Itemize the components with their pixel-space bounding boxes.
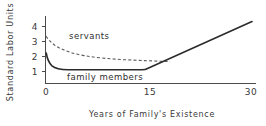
series-label-family-members: family members [67,72,143,82]
y-axis-title: Standard Labor Units [6,3,15,102]
y-tick-label-2: 2 [32,52,38,62]
labor-units-line-chart: 4 3 2 1 0 15 30 Standard Labor Units Yea… [0,0,266,126]
x-tick-label-0: 0 [43,87,49,97]
y-tick-label-3: 3 [32,37,38,47]
y-tick-label-1: 1 [32,67,38,77]
x-tick-label-15: 15 [144,87,156,97]
series-label-servants: servants [69,31,110,41]
x-axis-title: Years of Family's Existence [88,110,215,119]
x-tick-label-30: 30 [245,87,257,97]
series-family-members-curve [46,22,252,70]
chart-page: 4 3 2 1 0 15 30 Standard Labor Units Yea… [0,0,266,126]
y-tick-label-4: 4 [32,22,38,32]
